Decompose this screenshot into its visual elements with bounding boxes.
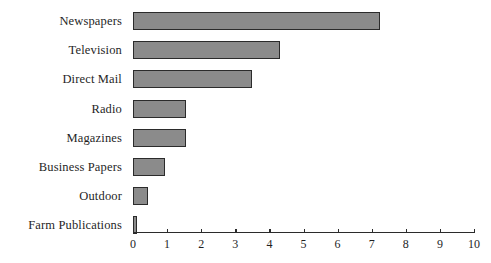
category-label: Business Papers (0, 158, 122, 176)
category-label: Direct Mail (0, 70, 122, 88)
category-label: Magazines (0, 129, 122, 147)
bar (133, 41, 280, 59)
x-axis-tick (440, 229, 441, 234)
bar (133, 12, 380, 30)
x-axis-tick-label: 7 (357, 236, 387, 252)
x-axis-tick (235, 229, 236, 234)
x-axis-tick (474, 229, 475, 234)
bar-chart: NewspapersTelevisionDirect MailRadioMaga… (0, 0, 491, 263)
x-axis-tick (406, 229, 407, 234)
x-axis-tick (167, 229, 168, 234)
plot-area (133, 0, 485, 232)
category-label: Radio (0, 100, 122, 118)
bar (133, 187, 148, 205)
x-axis-tick-label: 5 (289, 236, 319, 252)
x-axis-tick (304, 229, 305, 234)
category-label: Outdoor (0, 187, 122, 205)
x-axis-tick (372, 229, 373, 234)
x-axis-tick-label: 8 (391, 236, 421, 252)
x-axis-tick-label: 4 (254, 236, 284, 252)
x-axis-tick-label: 10 (459, 236, 489, 252)
x-axis-tick (338, 229, 339, 234)
x-axis-tick-label: 2 (186, 236, 216, 252)
bar (133, 129, 186, 147)
x-axis-tick (133, 229, 134, 234)
x-axis-tick-label: 0 (118, 236, 148, 252)
x-axis-tick (201, 229, 202, 234)
x-axis: 012345678910 (133, 232, 485, 263)
bar (133, 70, 252, 88)
x-axis-tick-label: 9 (425, 236, 455, 252)
category-label: Television (0, 41, 122, 59)
category-label: Farm Publications (0, 216, 122, 234)
bar (133, 100, 186, 118)
x-axis-tick-label: 1 (152, 236, 182, 252)
x-axis-tick-label: 3 (220, 236, 250, 252)
x-axis-tick-label: 6 (323, 236, 353, 252)
category-label: Newspapers (0, 12, 122, 30)
category-axis-labels: NewspapersTelevisionDirect MailRadioMaga… (0, 0, 126, 232)
bar (133, 158, 165, 176)
x-axis-tick (269, 229, 270, 234)
